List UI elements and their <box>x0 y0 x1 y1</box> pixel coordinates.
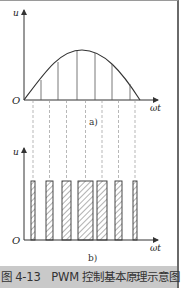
y-label-a: u <box>13 8 19 18</box>
y-label-b: u <box>13 147 19 157</box>
panel-a: u O ωt a) <box>12 8 161 127</box>
panel-b-label: b) <box>88 253 97 263</box>
pwm-diagram: u O ωt a) u O ωt <box>0 0 181 266</box>
origin-label-a: O <box>12 95 20 106</box>
segment-lines <box>41 51 130 100</box>
projection-lines <box>33 100 135 180</box>
sine-curve <box>24 50 140 100</box>
pulse-6 <box>115 181 122 240</box>
pwm-pulses <box>31 181 137 240</box>
x-label-a: ωt <box>150 103 161 113</box>
panel-b: u O ωt b) <box>12 147 161 263</box>
panel-a-label: a) <box>89 117 98 127</box>
x-label-b: ωt <box>150 243 161 253</box>
figure-caption: 图 4-13 PWM 控制基本原理示意图 <box>0 266 179 288</box>
pulse-7 <box>133 181 137 240</box>
pulse-2 <box>46 181 53 240</box>
pulse-1 <box>31 181 35 240</box>
pulse-4 <box>78 181 93 240</box>
pulse-5 <box>97 181 107 240</box>
origin-label-b: O <box>12 235 20 246</box>
pulse-3 <box>62 181 71 240</box>
